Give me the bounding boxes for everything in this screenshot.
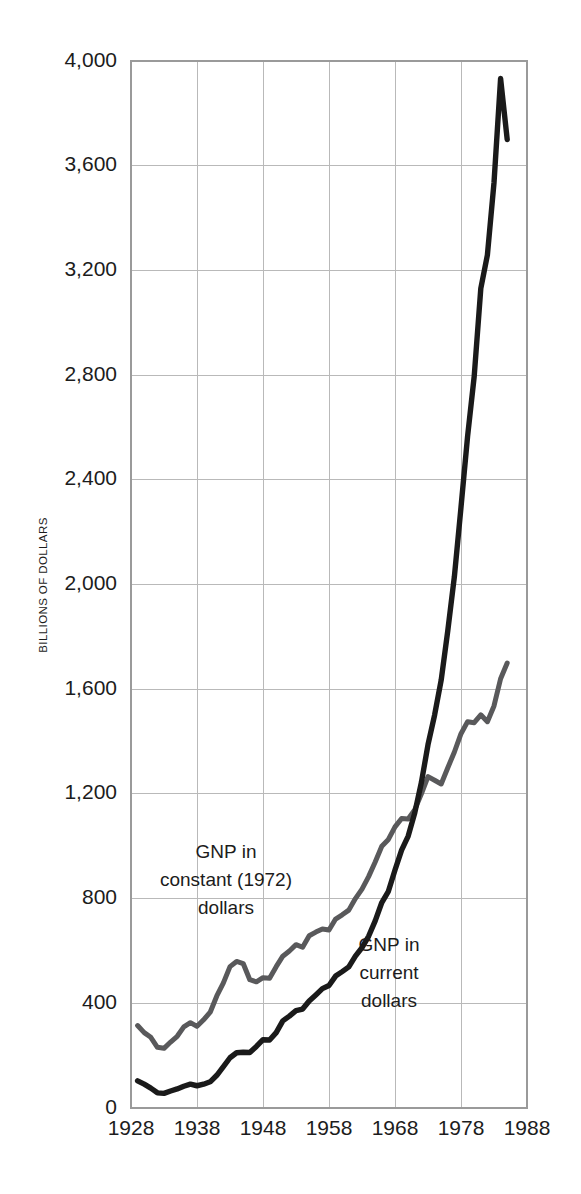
series-annotation-constant-dollars: GNP in constant (1972) dollars <box>160 841 292 918</box>
x-tick-label-1978: 1978 <box>438 1116 485 1139</box>
y-tick-label-0: 0 <box>105 1095 117 1118</box>
series-annotation-current-dollars: GNP in current dollars <box>359 934 420 1011</box>
series-line-current-dollars <box>138 79 508 1094</box>
data-series-group <box>138 79 508 1094</box>
y-tick-label-3200: 3,200 <box>64 257 117 280</box>
y-axis-tick-labels: 04008001,2001,6002,0002,4002,8003,2003,6… <box>64 48 117 1118</box>
y-tick-label-3600: 3,600 <box>64 152 117 175</box>
y-tick-label-2800: 2,800 <box>64 362 117 385</box>
y-tick-label-2400: 2,400 <box>64 466 117 489</box>
x-tick-label-1988: 1988 <box>504 1116 551 1139</box>
x-axis-tick-labels: 1928193819481958196819781988 <box>108 1116 551 1139</box>
x-tick-label-1938: 1938 <box>174 1116 221 1139</box>
annotation-current-line1: GNP in <box>359 934 420 955</box>
y-axis-title: BILLIONS OF DOLLARS <box>37 517 49 652</box>
annotation-constant-line1: GNP in <box>196 841 257 862</box>
y-tick-label-800: 800 <box>82 885 117 908</box>
y-tick-label-400: 400 <box>82 990 117 1013</box>
annotation-current-line3: dollars <box>361 990 417 1011</box>
x-tick-label-1958: 1958 <box>306 1116 353 1139</box>
y-tick-label-1600: 1,600 <box>64 676 117 699</box>
annotation-constant-line2: constant (1972) <box>160 869 292 890</box>
x-tick-label-1948: 1948 <box>240 1116 287 1139</box>
y-tick-label-1200: 1,200 <box>64 780 117 803</box>
y-tick-label-2000: 2,000 <box>64 571 117 594</box>
annotation-constant-line3: dollars <box>198 897 254 918</box>
chart-canvas: 04008001,2001,6002,0002,4002,8003,2003,6… <box>0 0 581 1194</box>
gnp-line-chart: 04008001,2001,6002,0002,4002,8003,2003,6… <box>0 0 581 1194</box>
y-tick-label-4000: 4,000 <box>64 48 117 71</box>
x-tick-label-1928: 1928 <box>108 1116 155 1139</box>
x-tick-label-1968: 1968 <box>372 1116 419 1139</box>
annotation-current-line2: current <box>359 962 419 983</box>
